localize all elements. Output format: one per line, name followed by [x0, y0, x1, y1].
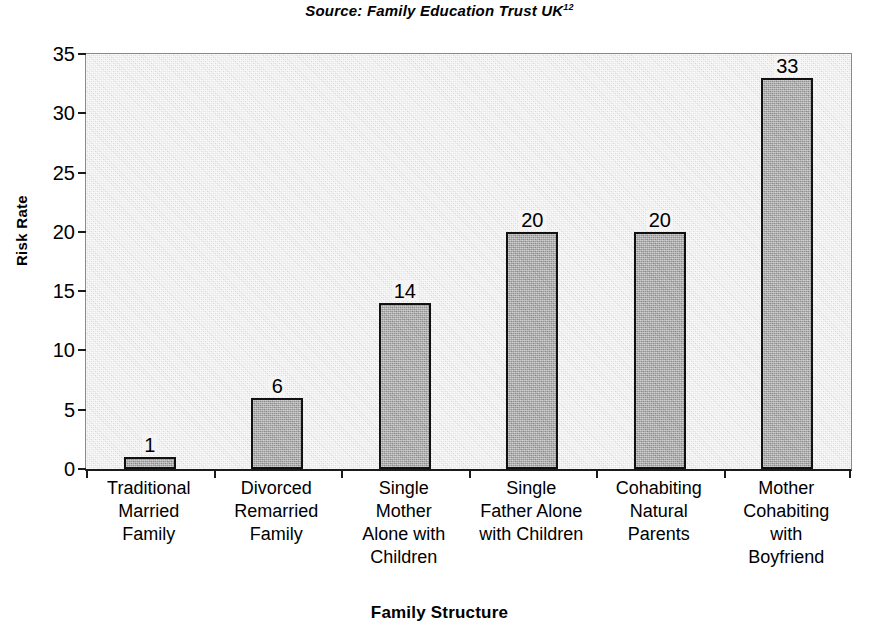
category-label-line: Family [85, 523, 213, 546]
category-label-line: Traditional [85, 477, 213, 500]
x-axis-category-label: SingleFather Alonewith Children [468, 477, 596, 546]
bar-value-label: 14 [392, 281, 418, 301]
chart-bar: 20 [506, 232, 558, 469]
y-axis-tick-mark [78, 172, 86, 174]
category-label-line: with [723, 523, 851, 546]
x-axis-title: Family Structure [0, 603, 879, 623]
x-axis-category-label: SingleMotherAlone withChildren [340, 477, 468, 569]
category-label-line: Family [213, 523, 341, 546]
y-axis-tick-label: 10 [53, 340, 75, 360]
y-axis-title: Risk Rate [13, 186, 30, 276]
category-label-line: Cohabiting [723, 500, 851, 523]
y-axis-tick-mark [78, 290, 86, 292]
category-label-line: Parents [595, 523, 723, 546]
chart-bar: 6 [251, 398, 303, 469]
category-label-line: Boyfriend [723, 546, 851, 569]
category-label-line: Single [468, 477, 596, 500]
x-axis-category-labels: TraditionalMarriedFamilyDivorcedRemarrie… [85, 477, 852, 587]
y-axis-tick-mark [78, 349, 86, 351]
y-axis-tick-mark [78, 53, 86, 55]
chart-bar: 33 [761, 78, 813, 469]
bar-value-label: 6 [270, 376, 285, 396]
source-text: Source: Family Education Trust UK [305, 2, 563, 19]
x-axis-category-label: CohabitingNaturalParents [595, 477, 723, 546]
y-axis-tick-label: 30 [53, 103, 75, 123]
category-label-line: Children [340, 546, 468, 569]
category-label-line: Remarried [213, 500, 341, 523]
y-axis-tick-mark [78, 468, 86, 470]
category-label-line: with Children [468, 523, 596, 546]
category-label-line: Cohabiting [595, 477, 723, 500]
source-footnote-superscript: 12 [563, 2, 573, 12]
chart-plot-area: 051015202530351614202033 [85, 53, 852, 471]
category-label-line: Mother [723, 477, 851, 500]
chart-bar: 20 [634, 232, 686, 469]
y-axis-tick-mark [78, 409, 86, 411]
y-axis-tick-mark [78, 112, 86, 114]
category-label-line: Alone with [340, 523, 468, 546]
category-label-line: Father Alone [468, 500, 596, 523]
y-axis-tick-label: 35 [53, 44, 75, 64]
y-axis-tick-label: 5 [64, 400, 75, 420]
y-axis-tick-label: 15 [53, 281, 75, 301]
y-axis-tick-label: 0 [64, 459, 75, 479]
chart-bar: 1 [124, 457, 176, 469]
x-axis-category-label: TraditionalMarriedFamily [85, 477, 213, 546]
y-axis-tick-label: 25 [53, 163, 75, 183]
y-axis-tick-mark [78, 231, 86, 233]
bar-value-label: 33 [774, 56, 800, 76]
bar-value-label: 20 [647, 210, 673, 230]
chart-bar: 14 [379, 303, 431, 469]
category-label-line: Natural [595, 500, 723, 523]
bar-value-label: 20 [519, 210, 545, 230]
category-label-line: Mother [340, 500, 468, 523]
category-label-line: Married [85, 500, 213, 523]
x-axis-category-label: DivorcedRemarriedFamily [213, 477, 341, 546]
bar-value-label: 1 [142, 435, 157, 455]
x-axis-category-label: MotherCohabitingwithBoyfriend [723, 477, 851, 569]
source-attribution: Source: Family Education Trust UK12 [0, 2, 879, 19]
category-label-line: Divorced [213, 477, 341, 500]
y-axis-tick-label: 20 [53, 222, 75, 242]
category-label-line: Single [340, 477, 468, 500]
